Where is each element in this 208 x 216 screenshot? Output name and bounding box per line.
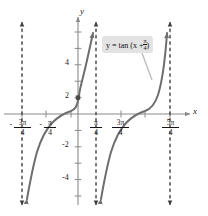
minus-sign: -: [40, 121, 43, 129]
equation-rhs: ): [147, 41, 150, 50]
y-tick-label-neg-4: -4: [62, 173, 69, 182]
equation-callout: y = tan (x +π4): [102, 36, 153, 53]
x-tick-label-neg-3pi-4: - 3π 4: [14, 119, 31, 136]
x-tick-label-neg-pi-4: - π 4: [44, 119, 56, 136]
tangent-graph-figure: x y 4 2 -2 -4 - 3π 4 - π 4 π 4 3π 4 5π 4…: [0, 0, 208, 216]
equation-lhs: y = tan (x +: [106, 41, 143, 50]
y-axis: [75, 17, 82, 205]
x-axis-label: x: [193, 106, 197, 116]
graph-canvas: [0, 0, 208, 216]
curve-branch-left: [27, 33, 93, 199]
x-axis: [4, 111, 190, 118]
x-tick-label-5pi-4: 5π 4: [162, 119, 179, 136]
curve-branch-right: [101, 33, 167, 199]
marked-point-0-1: [76, 95, 80, 99]
y-axis-label: y: [80, 6, 84, 16]
callout-leader-line: [142, 53, 152, 80]
x-tick-label-3pi-4: 3π 4: [112, 119, 129, 136]
y-tick-label-2: 2: [65, 91, 69, 100]
y-tick-label-neg-2: -2: [62, 140, 69, 149]
minus-sign: -: [10, 121, 13, 129]
y-tick-label-4: 4: [65, 58, 69, 67]
x-tick-label-pi-4: π 4: [90, 119, 102, 136]
